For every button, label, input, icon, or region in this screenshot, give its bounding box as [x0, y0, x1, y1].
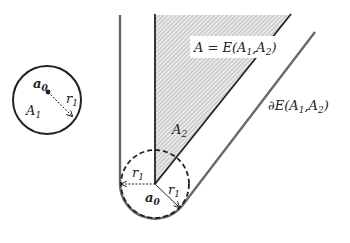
- disk-A1-region-label: A1: [25, 103, 41, 120]
- left-radius-label: r1: [132, 165, 144, 182]
- minkowski-sum-diagram: a0 A1 r1 A = E(A1,A2) A2 ∂E(A1,A2) r1 r1…: [0, 0, 350, 243]
- disk-A1: a0 A1 r1: [13, 66, 81, 134]
- base-point-a0-label: a0: [145, 190, 160, 207]
- right-radius-label: r1: [168, 182, 180, 199]
- disk-A1-center-label: a0: [33, 76, 48, 93]
- equation-label: A = E(A1,A2): [193, 40, 277, 57]
- disk-A1-radius-label: r1: [66, 91, 78, 108]
- boundary-dE-label: ∂E(A1,A2): [268, 98, 329, 115]
